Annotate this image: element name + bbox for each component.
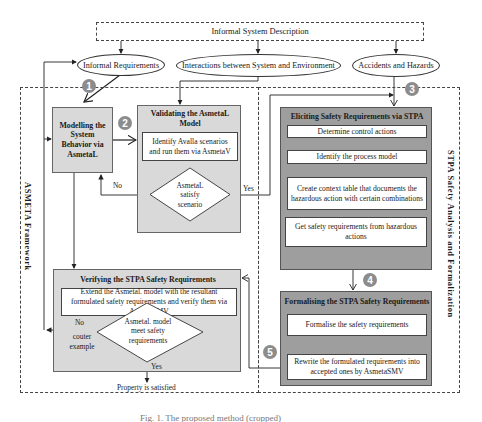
verifying-decision-label: Asmetal. model meet safety requirements — [122, 313, 174, 349]
step-badge-1: 1 — [82, 79, 96, 93]
accidents-hazards-ellipse: Accidents and Hazards — [352, 54, 440, 77]
figure-caption-clip: Fig. 1. The proposed method (cropped) — [140, 412, 360, 422]
formalising-box: Formalising the STPA Safety Requirements… — [280, 291, 432, 386]
eliciting-step-1: Determine control actions — [287, 125, 427, 138]
validating-yes-label: Yes — [243, 184, 254, 193]
eliciting-title: Eliciting Safety Requirements via STPA — [283, 112, 431, 122]
eliciting-step-3-label: Create context table that documents the … — [291, 184, 423, 204]
step-badge-4: 4 — [363, 273, 377, 287]
validating-title: Validating the AsmetaL Model — [142, 109, 238, 128]
step-badge-3: 3 — [405, 82, 419, 96]
system-description-box: Informal System Description — [96, 22, 424, 41]
eliciting-step-4: Get safety requirements from hazardous a… — [285, 217, 427, 247]
formalising-title: Formalising the STPA Safety Requirements — [283, 297, 431, 307]
informal-requirements-ellipse: Informal Requirements — [77, 54, 165, 76]
step-badge-5: 5 — [263, 345, 277, 359]
eliciting-box: Eliciting Safety Requirements via STPA D… — [280, 107, 432, 270]
verifying-no-label: No — [75, 318, 84, 327]
formalising-step-2: Rewrite the formulated requirements into… — [287, 354, 427, 380]
formalising-step-1-label: Formalise the safety requirements — [305, 320, 408, 330]
validating-no-label: No — [113, 181, 122, 190]
formalising-step-1: Formalise the safety requirements — [287, 314, 427, 336]
validating-step: Identify Avalla scenarios and run them v… — [142, 132, 238, 161]
validating-step-label: Identify Avalla scenarios and run them v… — [146, 137, 234, 157]
verifying-title: Verifying the STPA Safety Requirements — [56, 275, 240, 285]
accidents-hazards-label: Accidents and Hazards — [358, 61, 433, 70]
stpa-frame-left-edge — [258, 87, 259, 393]
modelling-box: Modelling the System Behavior via Asmeta… — [52, 107, 113, 173]
informal-requirements-label: Informal Requirements — [83, 61, 159, 70]
eliciting-step-2-label: Identify the process model — [317, 152, 398, 162]
verifying-yes-label: Yes — [151, 362, 162, 371]
formalising-step-2-label: Rewrite the formulated requirements into… — [291, 357, 423, 377]
eliciting-step-2: Identify the process model — [287, 150, 427, 164]
eliciting-step-1-label: Determine control actions — [318, 127, 397, 137]
verifying-counter-label: couter example — [64, 332, 100, 351]
stpa-frame-label: STPA Safety Analysis and Formalization — [446, 150, 455, 318]
validating-decision-label: AsmetaL satisfy scenario — [172, 178, 208, 212]
interactions-ellipse: Interactions between System and Environm… — [176, 54, 341, 77]
figure-caption: Fig. 1. The proposed method (cropped) — [140, 413, 360, 422]
property-satisfied-label: Property is satisfied — [117, 383, 176, 392]
eliciting-step-4-label: Get safety requirements from hazardous a… — [289, 222, 423, 242]
interactions-label: Interactions between System and Environm… — [182, 61, 335, 70]
eliciting-step-3: Create context table that documents the … — [287, 177, 427, 210]
asmeta-framework-label: ASMETA Framework — [23, 182, 32, 271]
step-badge-2: 2 — [118, 116, 132, 130]
system-description-label: Informal System Description — [211, 27, 308, 36]
modelling-title: Modelling the System Behavior via Asmeta… — [55, 121, 110, 160]
